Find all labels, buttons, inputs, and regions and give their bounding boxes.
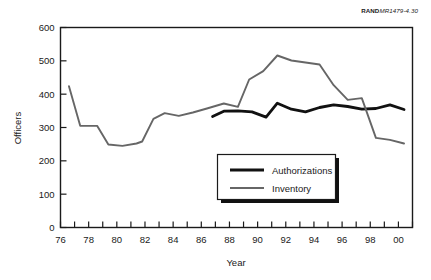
x-tick-label: 82 [140,234,151,245]
x-tick-label: 90 [252,234,263,245]
y-tick-label: 400 [39,89,55,100]
x-tick-label: 88 [224,234,235,245]
y-tick-label: 200 [39,155,55,166]
y-tick-label: 100 [39,189,55,200]
x-tick-label: 00 [393,234,404,245]
y-axis-title: Officers [12,111,23,144]
x-tick-label: 94 [309,234,320,245]
y-tick-label: 600 [39,22,55,33]
x-tick-label: 92 [280,234,291,245]
line-chart: 0100200300400500600 76788082848688909294… [0,0,431,280]
y-tick-label: 500 [39,55,55,66]
x-tick-label: 86 [196,234,207,245]
x-tick-label: 98 [365,234,376,245]
x-tick-label: 84 [168,234,179,245]
y-tick-label: 300 [39,122,55,133]
x-tick-label: 80 [112,234,123,245]
figure-container: RANDMR1479-4.30 0100200300400500600 7678… [0,0,431,280]
legend-label-inventory: Inventory [272,183,311,194]
legend-label-authorizations: Authorizations [272,165,332,176]
x-axis-tick-labels: 76788082848688909294969800 [55,234,403,245]
y-tick-label: 0 [49,222,54,233]
y-axis-tick-labels: 0100200300400500600 [39,22,55,233]
x-tick-label: 78 [83,234,94,245]
x-tick-label: 96 [337,234,348,245]
x-axis-title: Year [226,257,245,268]
x-tick-label: 76 [55,234,66,245]
chart-legend: AuthorizationsInventory [218,155,340,204]
